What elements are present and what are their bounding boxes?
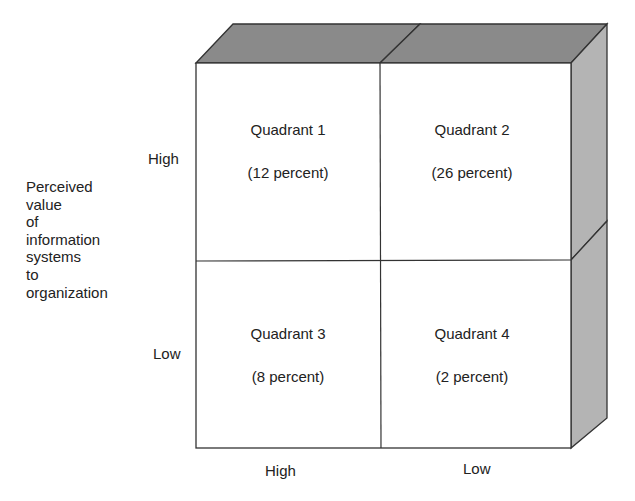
quadrant-2-title: Quadrant 2 [380,121,564,138]
quadrant-3-value: (8 percent) [196,368,380,385]
x-tick-low: Low [463,460,491,477]
side-face-top [571,24,607,260]
quadrant-4-value: (2 percent) [380,368,564,385]
y-tick-high: High [148,150,179,167]
quadrant-1-value: (12 percent) [196,164,380,181]
quadrant-1-title: Quadrant 1 [196,121,380,138]
quadrant-3-title: Quadrant 3 [196,325,380,342]
side-face-bottom [571,221,607,448]
quadrant-4-title: Quadrant 4 [380,325,564,342]
y-axis-label: Perceived value of information systems t… [26,178,108,301]
y-tick-low: Low [153,345,181,362]
quadrant-2-value: (26 percent) [380,164,564,181]
x-tick-high: High [265,462,296,479]
top-face-right [380,24,607,63]
